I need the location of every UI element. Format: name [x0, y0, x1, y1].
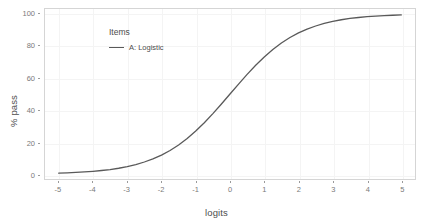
x-tick-label: 2 — [297, 185, 301, 194]
chart-container: 020406080100 % pass Items A: Logistic -5… — [0, 0, 433, 222]
y-axis: 020406080100 — [22, 8, 40, 180]
x-tick-label: -1 — [192, 185, 199, 194]
x-tick-mark — [333, 181, 334, 183]
x-tick-mark — [161, 181, 162, 183]
x-tick-label: -5 — [54, 185, 61, 194]
legend-item[interactable]: A: Logistic — [109, 43, 164, 52]
x-tick-label: 3 — [331, 185, 335, 194]
x-tick-mark — [196, 181, 197, 183]
x-axis: -5-4-3-2-1012345 — [44, 181, 416, 195]
x-tick-mark — [402, 181, 403, 183]
x-tick-mark — [264, 181, 265, 183]
x-tick-mark — [127, 181, 128, 183]
y-tick-mark — [38, 13, 40, 14]
x-tick-mark — [92, 181, 93, 183]
y-tick-label: 20 — [27, 138, 35, 147]
y-tick-label: 60 — [27, 73, 35, 82]
x-tick-label: 5 — [400, 185, 404, 194]
y-tick-mark — [38, 110, 40, 111]
x-tick-label: -3 — [123, 185, 130, 194]
y-tick-mark — [38, 143, 40, 144]
series-line-layer — [45, 9, 415, 179]
y-tick-mark — [38, 175, 40, 176]
x-tick-mark — [58, 181, 59, 183]
y-tick-mark — [38, 45, 40, 46]
legend-title: Items — [109, 27, 164, 37]
x-tick-label: 1 — [262, 185, 266, 194]
x-tick-label: -2 — [158, 185, 165, 194]
y-tick-label: 100 — [22, 8, 35, 17]
plot-panel: Items A: Logistic — [44, 8, 416, 180]
legend: Items A: Logistic — [109, 27, 164, 52]
x-tick-label: 4 — [366, 185, 370, 194]
legend-key-line — [109, 47, 124, 49]
x-tick-mark — [368, 181, 369, 183]
x-tick-mark — [230, 181, 231, 183]
x-tick-label: 0 — [228, 185, 232, 194]
y-tick-label: 40 — [27, 106, 35, 115]
y-axis-title: % pass — [8, 81, 19, 141]
x-tick-label: -4 — [89, 185, 96, 194]
legend-item-label: A: Logistic — [129, 43, 164, 52]
y-tick-label: 80 — [27, 41, 35, 50]
x-axis-title: logits — [0, 207, 433, 218]
y-tick-mark — [38, 78, 40, 79]
y-tick-label: 0 — [31, 171, 35, 180]
x-tick-mark — [299, 181, 300, 183]
